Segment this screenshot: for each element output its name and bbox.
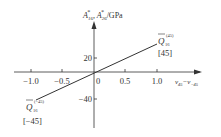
svg-text:[45]: [45] bbox=[158, 48, 172, 58]
annotation-q16-minus45: Q 16 (−45) [−45] bbox=[23, 99, 45, 126]
svg-text:Q: Q bbox=[158, 36, 165, 46]
x-tick-label: 0.5 bbox=[120, 76, 131, 86]
x-tick-label: −0.5 bbox=[54, 76, 69, 86]
x-axis-label: v45−v−45 bbox=[175, 78, 199, 87]
svg-text:(45): (45) bbox=[166, 33, 174, 38]
x-tick-label: −1.0 bbox=[23, 76, 38, 86]
x-tick-label: 1.0 bbox=[152, 76, 163, 86]
svg-text:(−45): (−45) bbox=[34, 99, 45, 104]
y-tick-label: 20 bbox=[84, 53, 93, 63]
svg-text:16: 16 bbox=[33, 108, 38, 113]
x-tick-label: 0 bbox=[96, 76, 100, 86]
x-axis-arrow-icon bbox=[194, 70, 202, 75]
y-tick-label: −40 bbox=[79, 94, 92, 104]
chart: −1.0 −0.5 0 0.5 1.0 20 −40 A16*, A26*/GP… bbox=[0, 0, 221, 137]
y-axis-label: A16*, A26*/GPa bbox=[82, 9, 123, 21]
y-axis-arrow-icon bbox=[92, 21, 97, 29]
svg-text:[−45]: [−45] bbox=[23, 116, 42, 126]
annotation-q16-45: Q 16 (45) [45] bbox=[158, 33, 174, 58]
svg-text:Q: Q bbox=[26, 102, 33, 112]
svg-text:16: 16 bbox=[165, 42, 170, 47]
